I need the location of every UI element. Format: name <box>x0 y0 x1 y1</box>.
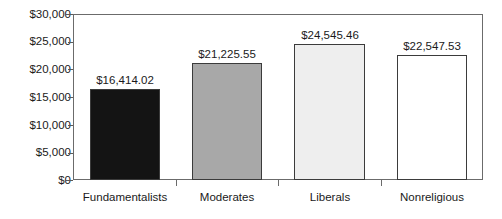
bar-value-label-fundamentalists: $16,414.02 <box>70 74 180 86</box>
bar-liberals <box>294 44 365 180</box>
bar-fundamentalists <box>90 89 160 180</box>
bar-value-label-liberals: $24,545.46 <box>275 29 385 41</box>
x-axis-category-label-moderates: Moderates <box>167 191 287 204</box>
bar-nonreligious <box>397 55 467 180</box>
bar-value-label-moderates: $21,225.55 <box>172 48 282 60</box>
bar-value-label-nonreligious: $22,547.53 <box>377 40 487 52</box>
bar-chart: $30,000 $25,000 $20,000 $15,000 $10,000 … <box>0 0 502 219</box>
bar-moderates <box>192 63 262 180</box>
x-axis-category-label-nonreligious: Nonreligious <box>372 191 492 204</box>
